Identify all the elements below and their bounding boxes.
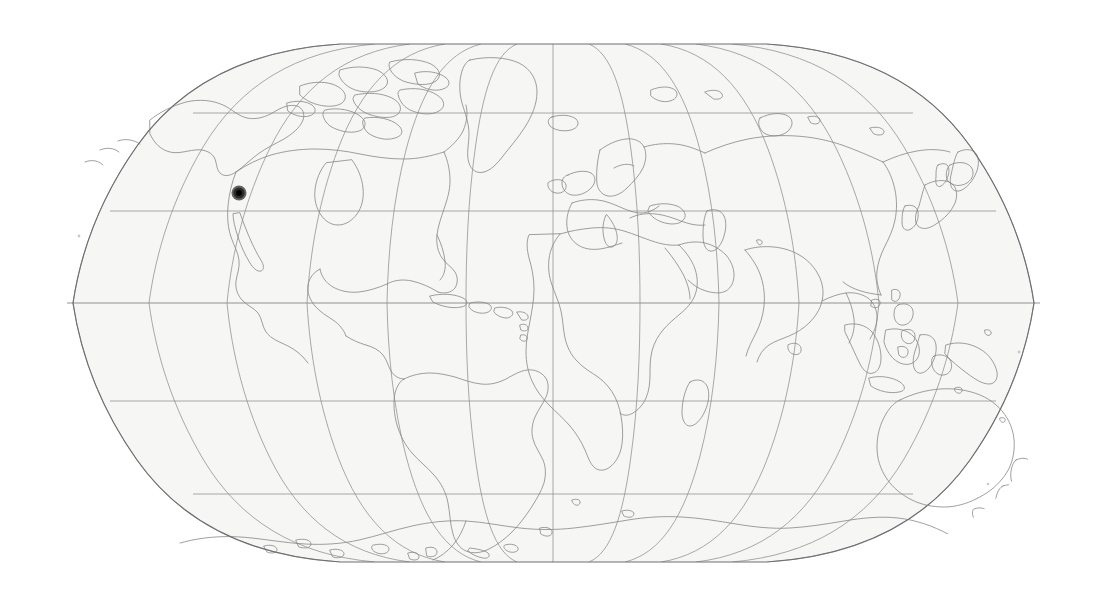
location-marker-core [236, 190, 242, 196]
world-map-canvas [0, 0, 1107, 606]
location-marker[interactable] [232, 186, 247, 201]
world-map-figure: World map with single location marker Ro… [0, 0, 1107, 606]
